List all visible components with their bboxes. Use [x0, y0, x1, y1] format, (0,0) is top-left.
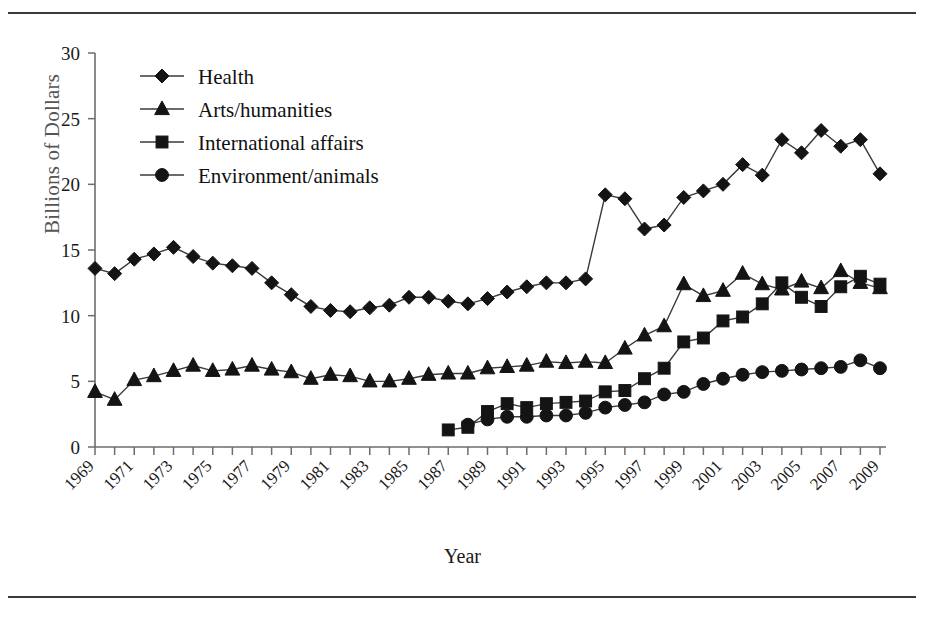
marker-circle	[795, 363, 808, 376]
marker-square	[156, 136, 168, 148]
x-tick-label: 2005	[767, 456, 804, 493]
marker-diamond	[304, 299, 318, 313]
marker-diamond	[88, 261, 102, 275]
marker-diamond	[108, 267, 122, 281]
y-tick-label: 10	[61, 306, 80, 327]
marker-square	[442, 424, 454, 436]
x-tick-label: 2001	[688, 456, 725, 493]
marker-triangle	[539, 354, 554, 368]
x-tick-label: 1997	[610, 456, 648, 494]
marker-diamond	[481, 292, 495, 306]
marker-square	[756, 298, 768, 310]
marker-square	[540, 398, 552, 410]
marker-triangle	[657, 318, 672, 332]
x-tick-label: 1983	[335, 456, 372, 493]
marker-diamond	[873, 167, 887, 181]
marker-diamond	[402, 290, 416, 304]
marker-circle	[638, 396, 651, 409]
x-tick-label: 1985	[374, 456, 411, 493]
marker-diamond	[834, 139, 848, 153]
marker-diamond	[147, 247, 161, 261]
marker-diamond	[755, 168, 769, 182]
marker-diamond	[284, 288, 298, 302]
x-tick-label: 1969	[60, 456, 97, 493]
marker-diamond	[559, 276, 573, 290]
marker-square	[776, 277, 788, 289]
x-tick-label: 1995	[571, 456, 608, 493]
marker-diamond	[461, 297, 475, 311]
y-tick-label: 5	[71, 371, 81, 392]
marker-square	[501, 398, 513, 410]
marker-diamond	[775, 133, 789, 147]
marker-diamond	[206, 256, 220, 270]
series-path	[95, 271, 880, 400]
x-tick-label: 1981	[296, 456, 333, 493]
marker-triangle	[735, 266, 750, 280]
marker-diamond	[500, 285, 514, 299]
marker-diamond	[657, 218, 671, 232]
x-tick-label: 1987	[414, 456, 452, 494]
marker-diamond	[618, 192, 632, 206]
marker-square	[560, 396, 572, 408]
x-tick-label: 2009	[845, 456, 882, 493]
marker-square	[717, 315, 729, 327]
marker-square	[580, 395, 592, 407]
marker-square	[639, 373, 651, 385]
marker-triangle	[618, 340, 633, 354]
marker-diamond	[441, 294, 455, 308]
marker-triangle	[186, 358, 201, 372]
marker-triangle	[245, 358, 260, 372]
marker-triangle	[155, 101, 170, 115]
marker-circle	[658, 388, 671, 401]
marker-circle	[579, 406, 592, 419]
marker-circle	[618, 399, 631, 412]
marker-square	[737, 311, 749, 323]
marker-circle	[815, 362, 828, 375]
marker-circle	[599, 401, 612, 414]
marker-square	[854, 270, 866, 282]
x-axis-label: Year	[0, 545, 925, 568]
y-tick-label: 30	[61, 43, 80, 64]
legend-item-international-affairs: International affairs	[140, 131, 364, 155]
marker-triangle	[480, 360, 495, 374]
marker-circle	[520, 410, 533, 423]
y-tick-label: 0	[71, 437, 81, 458]
marker-diamond	[520, 280, 534, 294]
marker-circle	[775, 364, 788, 377]
marker-triangle	[794, 273, 809, 287]
marker-square	[599, 386, 611, 398]
marker-diamond	[677, 190, 691, 204]
marker-square	[835, 281, 847, 293]
marker-square	[815, 301, 827, 313]
marker-circle	[461, 418, 474, 431]
marker-circle	[560, 409, 573, 422]
legend-label: Health	[198, 65, 254, 89]
marker-triangle	[578, 354, 593, 368]
marker-diamond	[343, 305, 357, 319]
marker-diamond	[382, 298, 396, 312]
marker-diamond	[245, 261, 259, 275]
marker-diamond	[265, 276, 279, 290]
x-tick-label: 1975	[178, 456, 215, 493]
marker-circle	[874, 362, 887, 375]
marker-square	[619, 385, 631, 397]
marker-circle	[717, 372, 730, 385]
x-tick-label: 1993	[531, 456, 568, 493]
x-tick-label: 1977	[217, 456, 255, 494]
marker-triangle	[441, 365, 456, 379]
marker-diamond	[638, 222, 652, 236]
legend-group: HealthArts/humanitiesInternational affai…	[140, 65, 379, 188]
marker-circle	[736, 368, 749, 381]
marker-circle	[697, 378, 710, 391]
marker-diamond	[186, 250, 200, 264]
marker-square	[678, 336, 690, 348]
marker-circle	[677, 385, 690, 398]
marker-diamond	[853, 133, 867, 147]
marker-triangle	[676, 276, 691, 290]
marker-triangle	[421, 367, 436, 381]
marker-circle	[481, 413, 494, 426]
legend-label: Arts/humanities	[198, 98, 332, 122]
x-tick-label: 2003	[728, 456, 765, 493]
marker-square	[874, 278, 886, 290]
legend-item-environment-animals: Environment/animals	[140, 164, 379, 188]
